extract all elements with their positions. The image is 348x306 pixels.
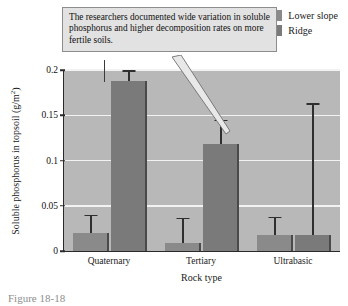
error-bar: [90, 215, 92, 233]
y-axis-tick-label: 0.15: [41, 110, 64, 120]
bar-quaternary-lower-slope: [73, 233, 109, 251]
x-axis-tick-label: Ultrabasic: [273, 256, 312, 266]
callout-pointer-quaternary: [104, 60, 105, 82]
error-bar-cap: [123, 70, 136, 72]
legend-item-lower-slope: Lower slope: [271, 8, 338, 23]
error-bar-cap: [85, 215, 98, 217]
error-bar: [312, 103, 314, 234]
error-bar: [274, 217, 276, 235]
y-axis-tick-label: 0: [53, 246, 64, 256]
bar-ultrabasic-lower-slope: [257, 235, 293, 251]
error-bar-cap: [269, 217, 282, 219]
figure-caption: Figure 18-18: [8, 292, 344, 304]
error-bar-cap: [177, 218, 190, 220]
error-bar: [182, 218, 184, 243]
error-bar-cap: [307, 103, 320, 105]
gridline: [64, 205, 340, 207]
chart-legend: Lower slopeRidge: [271, 8, 338, 38]
x-axis-title: Rock type: [63, 272, 340, 283]
callout-box: The researchers documented wide variatio…: [62, 7, 277, 52]
y-axis-tick-label: 0.1: [46, 156, 64, 166]
bar-ultrabasic-ridge: [295, 235, 331, 251]
figure-container: 00.050.10.150.2 Soluble phosphorus in to…: [0, 0, 348, 306]
bar-tertiary-ridge: [203, 144, 239, 251]
y-axis-tick-label: 0.2: [46, 65, 64, 75]
gridline: [64, 160, 340, 162]
bar-tertiary-lower-slope: [165, 243, 201, 251]
legend-label: Ridge: [288, 23, 312, 38]
x-axis-tick-label: Tertiary: [186, 256, 216, 266]
legend-label: Lower slope: [288, 8, 338, 23]
legend-item-ridge: Ridge: [271, 23, 338, 38]
y-axis-title: Soluble phosphorus in topsoil (g/m2): [6, 70, 20, 252]
y-axis-tick-label: 0.05: [41, 201, 64, 211]
bar-quaternary-ridge: [111, 81, 147, 251]
x-axis-tick-label: Quaternary: [88, 256, 131, 266]
callout-pointer-tertiary: [172, 55, 262, 150]
error-bar: [128, 70, 130, 81]
